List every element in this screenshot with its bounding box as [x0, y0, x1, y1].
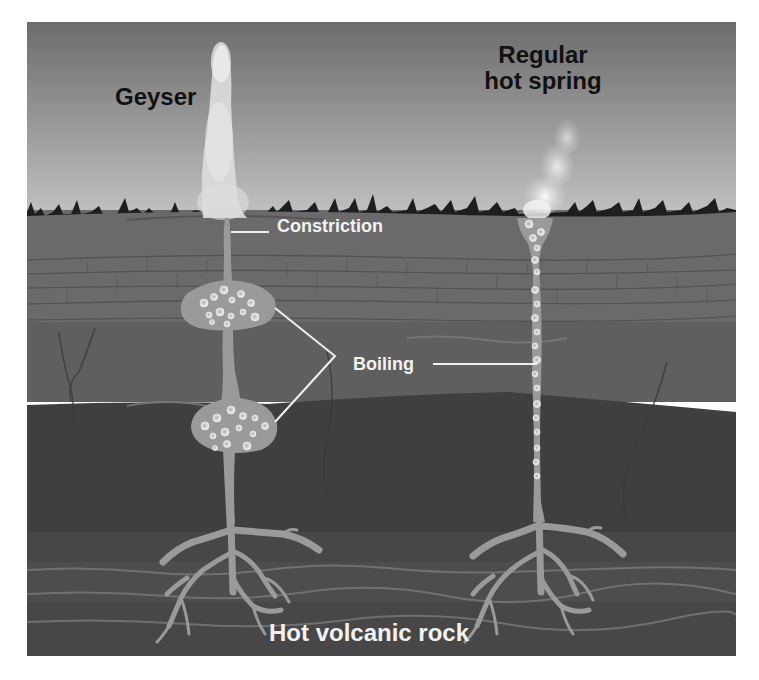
label-constriction: Constriction	[277, 216, 383, 236]
label-geyser: Geyser	[115, 84, 196, 110]
label-hot-spring-line1: Regular	[477, 42, 609, 68]
label-hot-volcanic-rock: Hot volcanic rock	[269, 620, 469, 646]
label-hot-spring-line2: hot spring	[477, 68, 609, 94]
sky	[27, 22, 736, 222]
ground-dark-layer	[27, 392, 736, 534]
diagram-illustration	[27, 22, 736, 656]
label-regular-hot-spring: Regular hot spring	[477, 42, 609, 94]
label-boiling: Boiling	[353, 354, 414, 374]
geyser-diagram: Geyser Regular hot spring Constriction B…	[27, 22, 736, 656]
